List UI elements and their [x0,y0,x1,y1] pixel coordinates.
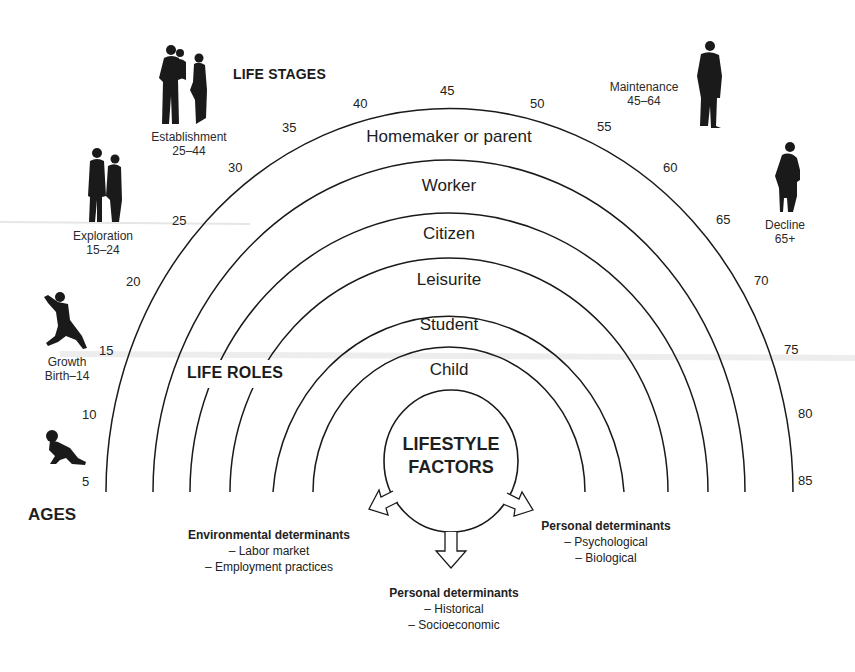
arrow-down-right-icon [503,492,533,516]
personal-item-biological: – Biological [541,550,670,566]
family-icon [159,45,207,124]
ages-heading: AGES [28,505,76,525]
role-label-student: Student [420,315,479,335]
stage-decline: Decline 65+ [765,219,805,247]
life-roles-heading: LIFE ROLES [187,364,283,382]
age-50: 50 [530,97,544,112]
personal-item-psychological: – Psychological [541,534,670,550]
role-label-child: Child [430,360,469,380]
age-15: 15 [99,344,113,359]
environmental-item-employment-practices: – Employment practices [188,559,350,575]
age-30: 30 [228,161,242,176]
stage-establishment-range: 25–44 [151,145,226,159]
age-65: 65 [716,213,730,228]
crawling-baby-icon [46,430,86,465]
role-label-worker: Worker [422,176,476,196]
stage-exploration-range: 15–24 [73,244,133,258]
age-5: 5 [82,475,89,490]
lifestyle-factors-line1: LIFESTYLE [402,433,499,456]
stage-establishment-name: Establishment [151,131,226,145]
young-couple-icon [88,148,122,222]
stage-growth-name: Growth [45,356,90,370]
stage-growth-range: Birth–14 [45,370,90,384]
stage-maintenance: Maintenance 45–64 [610,81,679,109]
age-45: 45 [440,84,454,99]
stage-maintenance-name: Maintenance [610,81,679,95]
age-70: 70 [754,274,768,289]
elderly-person-icon [775,142,800,212]
stage-growth: Growth Birth–14 [45,356,90,384]
age-55: 55 [597,120,611,135]
stage-decline-name: Decline [765,219,805,233]
role-label-homemaker: Homemaker or parent [366,127,531,147]
scan-artifact [0,222,250,224]
stage-establishment: Establishment 25–44 [151,131,226,159]
personal-determinants-right: Personal determinants – Psychological – … [541,518,670,567]
age-40: 40 [353,97,367,112]
age-75: 75 [784,343,798,358]
age-25: 25 [172,214,186,229]
role-label-leisurite: Leisurite [417,270,481,290]
environmental-item-labor-market: – Labor market [188,543,350,559]
stage-exploration: Exploration 15–24 [73,230,133,258]
lifestyle-factors-label: LIFESTYLE FACTORS [402,433,499,478]
personal-determinants-right-title: Personal determinants [541,518,670,534]
life-stages-heading: LIFE STAGES [233,66,326,82]
age-20: 20 [126,275,140,290]
role-label-citizen: Citizen [423,224,475,244]
life-career-rainbow-diagram [0,0,855,672]
environmental-determinants-title: Environmental determinants [188,527,350,543]
adult-man-icon [697,41,722,128]
personal-item-socioeconomic: – Socioeconomic [389,617,518,633]
stage-decline-range: 65+ [765,233,805,247]
arrow-down-left-icon [369,490,398,515]
personal-determinants-bottom: Personal determinants – Historical – Soc… [389,585,518,634]
age-80: 80 [798,407,812,422]
age-10: 10 [82,408,96,423]
age-60: 60 [663,161,677,176]
personal-determinants-bottom-title: Personal determinants [389,585,518,601]
arrow-down-icon [436,532,466,568]
stage-maintenance-range: 45–64 [610,95,679,109]
environmental-determinants: Environmental determinants – Labor marke… [188,527,350,576]
lifestyle-factors-line2: FACTORS [402,456,499,479]
age-35: 35 [282,121,296,136]
personal-item-historical: – Historical [389,601,518,617]
age-85: 85 [798,474,812,489]
stage-exploration-name: Exploration [73,230,133,244]
child-running-icon [44,292,87,349]
